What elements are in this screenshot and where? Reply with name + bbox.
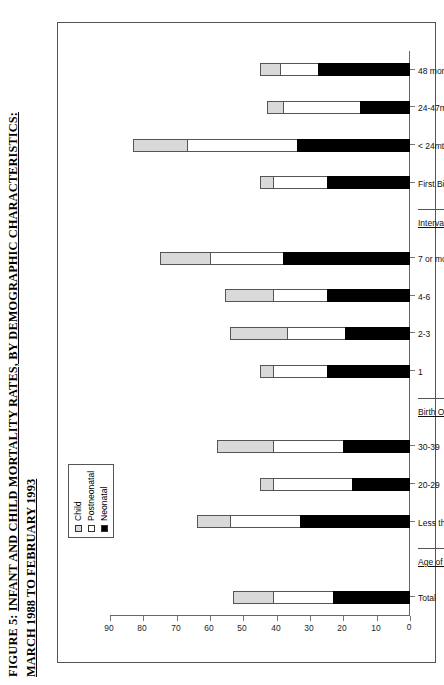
x-axis-category-label: 2-3 xyxy=(418,330,430,340)
bar-segment-postneonatal xyxy=(273,176,326,189)
bar-segment-neonatal xyxy=(345,327,410,340)
bar xyxy=(267,101,410,114)
bar-segment-postneonatal xyxy=(283,101,360,114)
x-axis-tick xyxy=(410,69,415,70)
bar-segment-child xyxy=(217,440,274,453)
x-axis-tick xyxy=(410,370,415,371)
y-axis-tick xyxy=(210,616,211,621)
y-axis-line xyxy=(110,615,410,616)
figure-title-line-1: INFANT AND CHILD MORTALITY RATES, BY DEM… xyxy=(6,112,20,611)
bar-segment-neonatal xyxy=(360,101,410,114)
bar-segment-neonatal xyxy=(352,478,410,491)
bar-segment-postneonatal xyxy=(210,252,283,265)
bar xyxy=(217,440,410,453)
bar-segment-neonatal xyxy=(327,365,410,378)
y-axis-tick-label: 20 xyxy=(337,624,347,646)
bar-segment-child xyxy=(133,139,186,152)
x-axis-category-label: 7 or more xyxy=(418,254,444,264)
bar xyxy=(160,252,410,265)
x-axis-tick xyxy=(410,182,415,183)
bar-segment-child xyxy=(160,252,210,265)
y-axis-tick xyxy=(343,616,344,621)
bar xyxy=(260,478,410,491)
y-axis-tick-label: 10 xyxy=(371,624,381,646)
bar-segment-child xyxy=(260,63,280,76)
bar-segment-postneonatal xyxy=(273,440,343,453)
y-axis-tick xyxy=(243,616,244,621)
x-axis-category-label: 4-6 xyxy=(418,292,430,302)
x-axis-tick xyxy=(410,144,415,145)
bar-segment-child xyxy=(225,289,273,302)
bar-segment-postneonatal xyxy=(273,289,326,302)
y-axis-tick-label: 0 xyxy=(404,624,414,646)
x-axis-group-rule xyxy=(418,210,444,211)
x-axis-category-label: Less than 20 xyxy=(418,518,444,528)
bar-segment-postneonatal xyxy=(187,139,297,152)
x-axis-tick xyxy=(410,596,415,597)
x-axis-tick xyxy=(410,257,415,258)
x-axis-category-label: Total xyxy=(418,593,436,603)
bar xyxy=(260,176,410,189)
bar-segment-postneonatal xyxy=(273,478,351,491)
y-axis-tick xyxy=(410,616,411,621)
bar-segment-neonatal xyxy=(343,440,410,453)
plot-area: 0102030405060708090 TotalLess than 2020-… xyxy=(110,51,410,616)
bar-segment-child xyxy=(260,365,273,378)
y-axis-tick-label: 30 xyxy=(304,624,314,646)
figure-title-line-2: MARCH 1988 TO FEBRUARY 1993 xyxy=(22,112,40,677)
bar-segment-child xyxy=(267,101,284,114)
bar xyxy=(260,365,410,378)
bar-segment-postneonatal xyxy=(287,327,345,340)
x-axis-category-label: 20-29 xyxy=(418,480,440,490)
legend-label-child: Child xyxy=(73,501,83,521)
y-axis-tick-label: 70 xyxy=(171,624,181,646)
y-axis-tick-label: 90 xyxy=(104,624,114,646)
bar-segment-postneonatal xyxy=(280,63,318,76)
bar-segment-postneonatal xyxy=(273,591,333,604)
chart-card: Child Postneonatal Neonatal 010203040506… xyxy=(57,22,436,663)
x-axis-group-header: Age of the Mother at the Birth xyxy=(418,558,444,568)
y-axis-tick xyxy=(310,616,311,621)
bar-segment-neonatal xyxy=(327,176,410,189)
bar-segment-neonatal xyxy=(283,252,410,265)
bar-segment-neonatal xyxy=(300,515,410,528)
bar xyxy=(133,139,410,152)
y-axis-tick-label: 50 xyxy=(237,624,247,646)
bar-segment-postneonatal xyxy=(230,515,300,528)
bar-segment-neonatal xyxy=(297,139,410,152)
bar xyxy=(260,63,410,76)
x-axis-group-header: Birth Order xyxy=(418,407,444,417)
bar-segment-child xyxy=(260,176,273,189)
x-axis-category-label: < 24mths xyxy=(418,141,444,151)
x-axis-tick xyxy=(410,107,415,108)
x-axis-group-rule xyxy=(418,398,444,399)
legend-item-neonatal: Neonatal xyxy=(99,471,109,532)
x-axis-category-label: 1 xyxy=(418,367,423,377)
bar-segment-neonatal xyxy=(318,63,410,76)
y-axis-tick xyxy=(143,616,144,621)
bar-segment-child xyxy=(260,478,273,491)
bar-segment-child xyxy=(197,515,230,528)
chart-legend: Child Postneonatal Neonatal xyxy=(68,464,114,538)
x-axis-tick xyxy=(410,483,415,484)
y-axis-tick xyxy=(277,616,278,621)
x-axis-group-rule xyxy=(418,549,444,550)
figure-title: FIGURE 5: INFANT AND CHILD MORTALITY RAT… xyxy=(0,0,52,685)
figure-number: FIGURE 5: xyxy=(6,614,20,677)
legend-swatch-neonatal-icon xyxy=(101,525,108,532)
x-axis-category-label: 48 months or more xyxy=(418,66,444,76)
y-axis-tick xyxy=(110,616,111,621)
y-axis-tick-label: 60 xyxy=(204,624,214,646)
legend-label-postneonatal: Postneonatal xyxy=(86,471,96,521)
x-axis-group-header: Interval Since Previous Birth xyxy=(418,219,444,229)
x-axis-tick xyxy=(410,446,415,447)
legend-label-neonatal: Neonatal xyxy=(99,487,109,521)
bar xyxy=(233,591,410,604)
x-axis-tick xyxy=(410,333,415,334)
bar-segment-neonatal xyxy=(333,591,410,604)
y-axis-tick xyxy=(177,616,178,621)
legend-item-child: Child xyxy=(73,471,83,532)
y-axis-tick xyxy=(377,616,378,621)
y-axis-tick-label: 80 xyxy=(137,624,147,646)
bar-segment-neonatal xyxy=(327,289,410,302)
